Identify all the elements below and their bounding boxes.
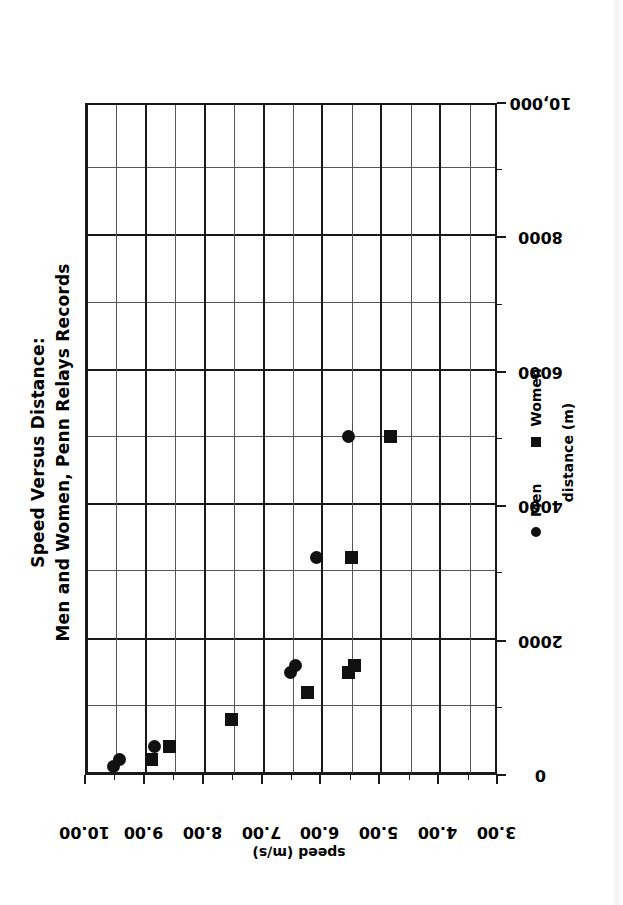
gridline-x-minor: [87, 302, 495, 303]
chart-title-line-2: Men and Women, Penn Relays Records: [51, 0, 76, 905]
gridline-y-major: [321, 105, 323, 773]
x-tick-minor: [497, 707, 502, 708]
legend-label-women: Women: [528, 368, 544, 427]
plot-area: [85, 103, 497, 775]
gridline-y-major: [145, 105, 147, 773]
gridline-x-minor: [87, 436, 495, 437]
x-axis-title: distance (m): [560, 0, 576, 905]
gridline-y-major: [380, 105, 382, 773]
data-point-men: [113, 753, 126, 766]
chart-title: Speed Versus Distance: Men and Women, Pe…: [26, 0, 76, 905]
data-point-women: [225, 713, 238, 726]
y-tick-major: [202, 775, 204, 784]
data-point-women: [163, 740, 176, 753]
gridline-x-major: [87, 503, 495, 505]
y-axis-title: speed (m/s): [229, 845, 369, 861]
x-tick-minor: [497, 438, 502, 439]
gridline-x-minor: [87, 705, 495, 706]
square-marker-icon: [531, 437, 541, 447]
gridline-x-minor: [87, 167, 495, 168]
y-tick-minor: [350, 775, 351, 780]
y-tick-major: [496, 775, 498, 784]
legend-entry-men: Men: [527, 484, 544, 537]
gridline-y-major: [87, 105, 88, 773]
gridline-x-major: [87, 234, 495, 236]
gridline-y-major: [439, 105, 441, 773]
y-tick-major: [261, 775, 263, 784]
y-tick-minor: [173, 775, 174, 780]
gridline-y-minor: [234, 105, 235, 773]
data-point-women: [345, 551, 358, 564]
y-tick-minor: [291, 775, 292, 780]
data-point-men: [148, 740, 161, 753]
gridline-x-major: [87, 772, 495, 773]
y-tick-minor: [232, 775, 233, 780]
gridline-y-minor: [175, 105, 176, 773]
gridline-x-major: [87, 638, 495, 640]
y-tick-major: [378, 775, 380, 784]
x-tick-minor: [497, 304, 502, 305]
gridline-y-major: [263, 105, 265, 773]
gridline-x-minor: [87, 570, 495, 571]
y-tick-major: [143, 775, 145, 784]
y-tick-major: [437, 775, 439, 784]
y-tick-minor: [409, 775, 410, 780]
y-tick-major: [319, 775, 321, 784]
gridline-x-major: [87, 369, 495, 371]
legend-entry-women: Women: [527, 368, 544, 447]
y-tick-major: [84, 775, 86, 784]
y-tick-minor: [468, 775, 469, 780]
gridline-y-minor: [411, 105, 412, 773]
gridline-y-minor: [116, 105, 117, 773]
data-point-women: [348, 659, 361, 672]
data-point-women: [301, 686, 314, 699]
gridline-y-major: [204, 105, 206, 773]
gridline-y-minor: [470, 105, 471, 773]
y-tick-label: 10.00: [50, 823, 120, 842]
x-tick-minor: [497, 572, 502, 573]
x-tick-minor: [497, 169, 502, 170]
chart-figure: Speed Versus Distance: Men and Women, Pe…: [0, 0, 623, 905]
chart-page: Speed Versus Distance: Men and Women, Pe…: [0, 0, 623, 905]
chart-legend: Men Women: [527, 0, 544, 905]
chart-title-line-1: Speed Versus Distance:: [26, 0, 51, 905]
scan-artifact: [612, 0, 622, 905]
y-tick-minor: [114, 775, 115, 780]
legend-label-men: Men: [528, 484, 544, 517]
data-point-women: [384, 431, 397, 444]
circle-marker-icon: [531, 527, 541, 537]
data-point-women: [145, 753, 158, 766]
